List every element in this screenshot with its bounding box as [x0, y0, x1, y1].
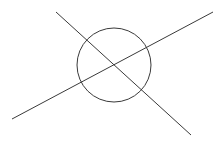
diagram-canvas	[0, 0, 224, 144]
diagonal-line-descending	[56, 12, 191, 135]
